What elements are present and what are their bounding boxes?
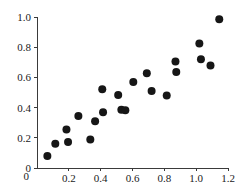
data-point-series — [43, 15, 223, 160]
y-tick-label: 0.8 — [17, 41, 31, 53]
data-point — [43, 152, 51, 160]
x-tick-label: 0.4 — [94, 172, 108, 184]
data-point — [172, 68, 180, 76]
data-point — [171, 58, 179, 66]
data-point — [148, 87, 156, 95]
x-axis-tick-labels: 00.20.40.60.81.01.2 — [24, 170, 235, 184]
data-point — [86, 136, 94, 144]
data-point — [114, 91, 122, 99]
data-point — [206, 62, 214, 70]
data-point — [64, 138, 72, 146]
x-tick-label: 0 — [24, 170, 30, 182]
scatter-plot-figure: 00.20.40.60.81.0 00.20.40.60.81.01.2 — [0, 0, 239, 192]
y-tick-label: 0.2 — [17, 132, 31, 144]
data-point — [215, 15, 223, 23]
x-tick-label: 0.2 — [62, 172, 76, 184]
x-tick-label: 1.0 — [189, 172, 203, 184]
data-point — [129, 78, 137, 86]
x-tick-label: 0.6 — [126, 172, 140, 184]
x-tick-label: 1.2 — [221, 172, 235, 184]
data-point — [91, 117, 99, 125]
data-point — [62, 126, 70, 134]
data-point — [197, 55, 205, 63]
y-tick-label: 0.4 — [17, 102, 31, 114]
y-tick-label: 1.0 — [17, 11, 31, 23]
data-point — [98, 85, 106, 93]
data-point — [51, 140, 59, 148]
data-point — [99, 108, 107, 116]
data-point — [163, 92, 171, 100]
y-tick-label: 0.6 — [17, 71, 31, 83]
data-point — [74, 112, 82, 120]
scatter-plot-canvas: 00.20.40.60.81.0 00.20.40.60.81.01.2 — [0, 0, 239, 192]
data-point — [195, 39, 203, 47]
y-axis-tick-labels: 00.20.40.60.81.0 — [17, 11, 31, 174]
x-tick-label: 0.8 — [157, 172, 171, 184]
data-point — [121, 106, 129, 114]
data-point — [143, 69, 151, 77]
